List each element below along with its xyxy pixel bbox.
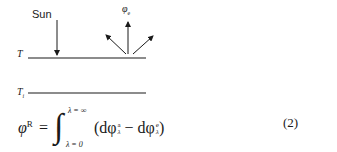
equation-lhs: φR — [18, 119, 33, 137]
diagram-lines — [0, 0, 337, 100]
integrand: (dφaλ − dφeλ) — [94, 119, 164, 137]
equals-sign: = — [39, 119, 48, 137]
upper-limit: λ = ∞ — [68, 106, 87, 115]
equation-number: (2) — [283, 115, 298, 131]
emitted-flux-label: φe — [122, 3, 130, 16]
emitted-arrow-right-icon — [133, 36, 153, 54]
integral-sign: ∫ — [54, 106, 63, 146]
lower-limit: λ = 0 — [66, 140, 83, 149]
emitted-arrow-left-icon — [106, 35, 126, 54]
equation: φR = ∫ λ = ∞ λ = 0 (dφaλ − dφeλ) — [18, 108, 164, 148]
surface-ti-label: Ti — [17, 86, 24, 99]
surface-t-label: T — [17, 48, 23, 59]
integral: ∫ λ = ∞ λ = 0 — [54, 108, 88, 148]
